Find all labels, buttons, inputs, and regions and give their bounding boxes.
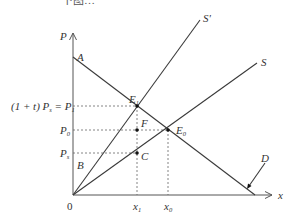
label-e1: E1	[128, 93, 139, 106]
supply-taxed-label: S'	[203, 12, 212, 24]
caption-partial: 下图…	[62, 0, 95, 6]
demand-pointer	[249, 163, 265, 186]
point-e0	[166, 128, 170, 132]
y-axis-label: P	[59, 30, 67, 42]
x-axis-label: x	[277, 189, 283, 201]
tax-incidence-diagram: 下图… P x 0 S' S D A B C F	[0, 0, 292, 219]
supply-label: S	[261, 56, 267, 68]
curves	[73, 20, 265, 195]
guide-lines	[73, 106, 168, 195]
label-c: C	[141, 150, 149, 162]
label-f: F	[140, 117, 148, 129]
demand-curve	[73, 57, 255, 195]
demand-label: D	[260, 152, 269, 164]
tick-p0: P0	[59, 124, 71, 137]
label-e0: E0	[175, 124, 187, 137]
label-b: B	[77, 159, 84, 171]
origin-label: 0	[67, 200, 73, 212]
label-a: A	[76, 51, 84, 63]
point-f	[135, 128, 139, 132]
tick-x0: x0	[163, 200, 173, 213]
tick-ps: Ps	[59, 147, 70, 160]
tick-x1: x1	[132, 200, 141, 213]
tick-p1: (1 + t) Ps = P1	[11, 100, 75, 113]
point-c	[135, 151, 139, 155]
